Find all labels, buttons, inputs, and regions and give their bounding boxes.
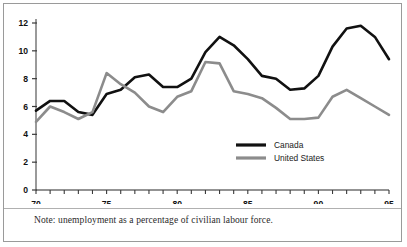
series-line-united-states (36, 62, 389, 122)
y-axis-tick-label: 6 (23, 102, 28, 112)
series-line-canada (36, 26, 389, 115)
legend-label-canada: Canada (274, 140, 304, 150)
legend-label-united-states: United States (274, 153, 324, 163)
note-divider (4, 208, 401, 209)
x-axis-tick-label: 75 (102, 199, 112, 205)
y-axis-tick-label: 2 (23, 157, 28, 167)
figure-frame: 024681012707580859095CanadaUnited States… (3, 3, 402, 242)
x-axis-tick-label: 80 (172, 199, 182, 205)
line-chart: 024681012707580859095CanadaUnited States (4, 4, 403, 204)
y-axis-tick-label: 4 (23, 129, 28, 139)
y-axis-tick-label: 10 (18, 46, 28, 56)
x-axis-tick-label: 85 (243, 199, 253, 205)
x-axis-tick-label: 70 (31, 199, 41, 205)
chart-note: Note: unemployment as a percentage of ci… (34, 215, 273, 225)
chart-plot-area: 024681012707580859095CanadaUnited States (4, 4, 403, 204)
y-axis-tick-label: 12 (18, 18, 28, 28)
x-axis-tick-label: 95 (384, 199, 394, 205)
y-axis-tick-label: 0 (23, 185, 28, 195)
x-axis-tick-label: 90 (314, 199, 324, 205)
y-axis-tick-label: 8 (23, 74, 28, 84)
